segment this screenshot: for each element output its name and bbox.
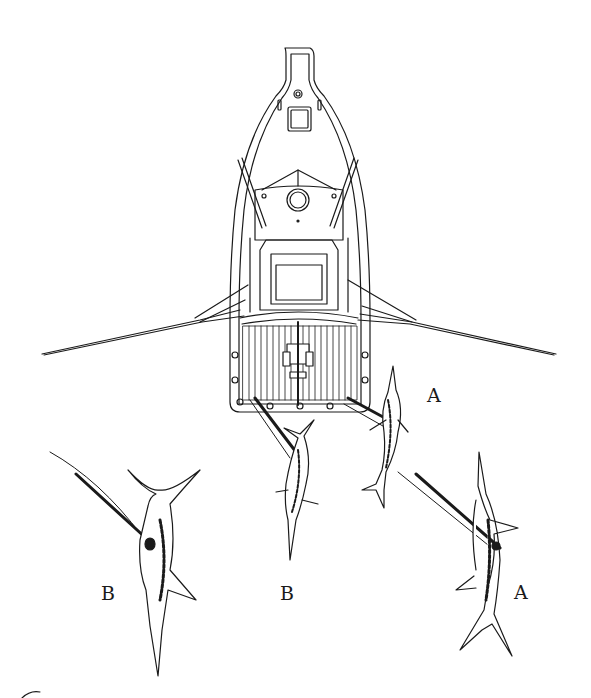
boat-marlin-diagram [0, 0, 591, 698]
marlin-b-left [128, 470, 200, 676]
label-a-upper: A [427, 386, 441, 405]
marlin-b-near-stern [276, 420, 318, 560]
leader-lines [50, 400, 488, 545]
marlin-a-right [456, 452, 518, 656]
label-b-left: B [101, 584, 115, 603]
marlin-a-near-stern [362, 366, 408, 508]
label-b-center: B [280, 584, 294, 603]
starboard-outrigger [348, 280, 556, 355]
port-outrigger [42, 285, 248, 355]
corner-mark [22, 692, 40, 698]
label-a-lower: A [514, 583, 528, 602]
fighting-chair [283, 322, 313, 405]
